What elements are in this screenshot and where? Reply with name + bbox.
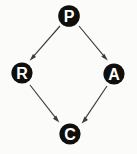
node-c[interactable]: C	[59, 123, 80, 144]
node-c-label: C	[64, 126, 76, 143]
node-p[interactable]: P	[58, 5, 80, 27]
edge-a-to-c-line	[85, 86, 107, 119]
node-r[interactable]: R	[11, 62, 32, 83]
edge-a-to-c	[82, 86, 107, 123]
edge-p-to-a-line	[79, 26, 105, 57]
edge-group	[30, 26, 108, 123]
edge-p-to-a	[79, 26, 108, 61]
edge-p-to-r	[30, 26, 60, 61]
node-r-label: R	[16, 65, 28, 82]
node-group: P R A C	[11, 5, 124, 144]
edge-a-to-c-arrowhead	[82, 117, 88, 124]
node-a-label: A	[108, 66, 120, 83]
edge-r-to-c-line	[30, 85, 56, 119]
edge-p-to-r-line	[33, 26, 60, 57]
node-p-label: P	[64, 8, 75, 25]
node-a[interactable]: A	[103, 63, 124, 84]
diagram-canvas: P R A C	[0, 0, 137, 154]
directed-graph: P R A C	[0, 0, 137, 154]
edge-r-to-c	[30, 85, 59, 123]
